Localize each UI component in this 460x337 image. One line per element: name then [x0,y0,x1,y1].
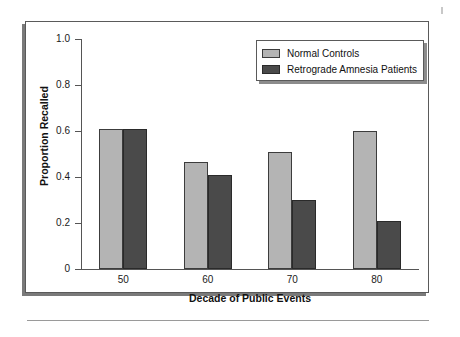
bottom-rule-divider [27,320,429,321]
legend-label: Normal Controls [287,48,359,59]
y-axis-tick-label: 0.2 [34,217,70,228]
x-axis-title: Decade of Public Events [81,292,419,304]
bar-normal-controls-60 [184,162,208,269]
legend-item: Normal Controls [262,45,418,61]
bar-normal-controls-50 [99,129,123,269]
y-axis-title: Proportion Recalled [38,56,50,216]
y-axis-tick-label: 0 [34,263,70,274]
x-axis-tick-label: 70 [272,274,312,285]
y-axis-tick [75,269,81,270]
legend-swatch-icon [262,49,280,58]
bar-normal-controls-80 [353,131,377,269]
y-axis-tick [75,177,81,178]
x-axis-line [81,269,419,270]
bar-retrograde-amnesia-patients-60 [208,175,232,269]
y-axis-line [81,39,82,269]
y-axis-tick [75,39,81,40]
y-axis-tick [75,131,81,132]
y-axis-tick [75,85,81,86]
bar-retrograde-amnesia-patients-80 [377,221,401,269]
bar-retrograde-amnesia-patients-70 [292,200,316,269]
y-axis-tick-label: 1.0 [34,33,70,44]
bar-retrograde-amnesia-patients-50 [123,129,147,269]
figure-container: 00.20.40.60.81.0 50607080 Proportion Rec… [0,0,460,337]
corner-mark [441,7,443,14]
chart-legend: Normal Controls Retrograde Amnesia Patie… [256,40,424,81]
legend-swatch-icon [262,65,280,74]
y-axis-tick [75,223,81,224]
x-axis-tick-label: 80 [357,274,397,285]
bar-normal-controls-70 [268,152,292,269]
x-axis-tick-label: 60 [188,274,228,285]
legend-label: Retrograde Amnesia Patients [287,64,417,75]
chart-panel: 00.20.40.60.81.0 50607080 Proportion Rec… [25,21,429,293]
legend-item: Retrograde Amnesia Patients [262,61,418,77]
x-axis-tick-label: 50 [103,274,143,285]
